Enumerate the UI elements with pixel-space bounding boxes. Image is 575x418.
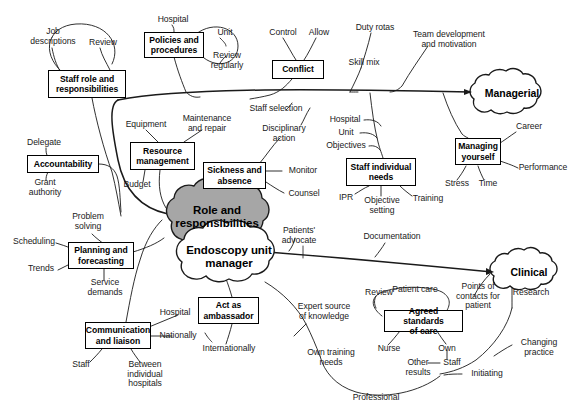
label-unit-needs: Unit [330, 128, 362, 138]
cloud-clinical-label: Clinical [498, 264, 560, 280]
label-monitor: Monitor [282, 166, 324, 176]
label-documentation: Documentation [359, 232, 425, 242]
label-team-development: Team development and motivation [400, 30, 498, 49]
label-nationally: Nationally [153, 331, 203, 341]
node-staff-individual-needs[interactable]: Staff individual needs [346, 158, 416, 186]
spine-clinical [253, 251, 492, 272]
label-grant-authority: Grant authority [20, 178, 70, 197]
label-performance: Performance [514, 163, 572, 173]
label-control: Control [263, 28, 303, 38]
label-stress: Stress [438, 179, 476, 189]
label-hospital-needs: Hospital [323, 115, 367, 125]
conn-ambassador-to-centre [226, 279, 232, 297]
label-review-staff-role: Review [84, 38, 122, 48]
node-resource-management[interactable]: Resource management [130, 142, 195, 170]
conn-internationally [226, 324, 232, 344]
node-policies-procedures[interactable]: Policies and procedures [144, 32, 204, 58]
mindmap-diagram: Role and responsibilities Endoscopy unit… [0, 0, 575, 418]
conn-counsel [266, 182, 284, 193]
label-staff-selection: Staff selection [245, 104, 307, 114]
label-objectives: Objectives [322, 141, 370, 151]
node-managing-yourself[interactable]: Managing yourself [455, 138, 501, 165]
label-trends: Trends [22, 264, 60, 274]
label-review-regularly: Review regularly [204, 51, 250, 70]
conn-planning-to-centre [133, 238, 164, 252]
label-ipr: IPR [335, 193, 357, 203]
label-scheduling: Scheduling [9, 237, 59, 247]
label-review-standards: Review [360, 288, 398, 298]
label-initiating: Initiating [464, 369, 510, 379]
conn-team-development [390, 46, 428, 92]
label-allow: Allow [303, 28, 335, 38]
label-other-results: Other results [400, 358, 436, 377]
label-patients-advocate: Patients' advocate [274, 226, 324, 245]
node-staff-role[interactable]: Staff role and responsibilities [48, 70, 126, 98]
conn-initiating [444, 374, 462, 375]
label-career: Career [511, 122, 547, 132]
conn-control [283, 38, 296, 60]
conn-review-staff [100, 48, 110, 70]
label-unit-policies: Unit [210, 28, 240, 38]
conn-documentation [375, 243, 385, 257]
label-counsel: Counsel [283, 189, 325, 199]
center-secondary-label: Endoscopy unit manager [173, 240, 285, 274]
conn-nationally-to-ambassador [205, 333, 212, 342]
conn-own-training-needs [294, 324, 306, 336]
node-agreed-standards[interactable]: Agreed standards of care [384, 310, 463, 332]
label-objective-setting: Objective setting [360, 196, 404, 215]
label-duty-rotas: Duty rotas [350, 23, 400, 33]
node-accountability[interactable]: Accountability [27, 155, 99, 173]
label-professional: Professional [348, 393, 404, 403]
conn-skill-mix [350, 68, 361, 92]
label-staff-comm: Staff [66, 360, 96, 370]
conn-unit-policies [220, 38, 226, 46]
label-changing-practice: Changing practice [512, 338, 566, 357]
label-staff-standards: Staff [438, 358, 466, 368]
spine-managerial [118, 90, 470, 100]
label-internationally: Internationally [198, 344, 260, 354]
label-disciplinary-action: Disciplinary action [255, 124, 313, 143]
label-expert-source: Expert source of knowledge [290, 302, 358, 321]
label-budget: Budget [117, 180, 157, 190]
conn-equipment [146, 130, 158, 142]
node-conflict[interactable]: Conflict [272, 60, 324, 79]
conn-comm-to-centre [126, 220, 162, 322]
conn-allow [304, 38, 316, 60]
conn-spine-to-managing [443, 93, 468, 138]
label-hospital-ambassador: Hospital [153, 308, 197, 318]
conn-job-descriptions [52, 48, 60, 71]
center-primary-label: Role and responsibilities [160, 200, 274, 234]
node-communication-liaison[interactable]: Communication and liaison [85, 322, 151, 349]
label-nurse: Nurse [372, 344, 406, 354]
node-planning-forecasting[interactable]: Planning and forecasting [68, 242, 134, 269]
label-equipment: Equipment [119, 120, 173, 130]
conn-hospital-policies [172, 25, 174, 32]
cloud-managerial-label: Managerial [478, 84, 546, 102]
label-hospital-policies: Hospital [151, 15, 195, 25]
conn-changing-practice [494, 345, 512, 356]
conn-unit-needs [360, 133, 377, 138]
label-own-training-needs: Own training needs [300, 348, 362, 367]
node-act-as-ambassador[interactable]: Act as ambassador [198, 297, 259, 324]
label-skill-mix: Skill mix [343, 58, 385, 68]
label-own: Own [433, 344, 461, 354]
label-delegate: Delegate [20, 138, 68, 148]
label-research: Research [508, 288, 554, 298]
conn-objectives [369, 146, 380, 150]
label-service-demands: Service demands [82, 278, 128, 297]
node-sickness-absence[interactable]: Sickness and absence [203, 162, 266, 189]
label-job-descriptions: Job descriptions [20, 27, 86, 46]
label-time: Time [474, 179, 502, 189]
label-between-hospitals: Between individual hospitals [120, 360, 170, 389]
label-problem-solving: Problem solving [63, 212, 113, 231]
conn-conflict-to-spine [250, 79, 292, 99]
label-points-of-contacts: Points of contacts for patient [452, 282, 504, 311]
label-training: Training [408, 194, 448, 204]
label-maintenance-repair: Maintenance and repair [175, 114, 239, 133]
conn-ipr [355, 186, 369, 194]
